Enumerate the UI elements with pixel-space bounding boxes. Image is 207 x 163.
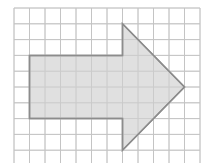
grid-canvas [0, 0, 207, 163]
